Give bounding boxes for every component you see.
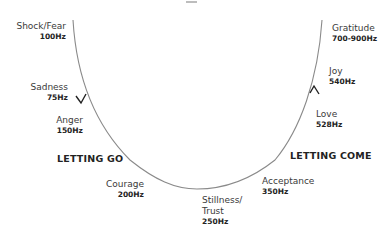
node-love: Love 528Hz: [316, 109, 342, 130]
node-frequency: 250Hz: [202, 217, 242, 227]
node-name-line2: Trust: [202, 206, 242, 217]
section-letting-go: LETTING GO: [57, 153, 123, 164]
node-shock-fear: Shock/Fear 100Hz: [4, 21, 66, 42]
node-name: Joy: [329, 66, 355, 77]
node-name: Love: [316, 109, 342, 120]
node-name: Anger: [30, 115, 83, 126]
node-frequency: 100Hz: [4, 32, 66, 42]
node-anger: Anger 150Hz: [30, 115, 83, 136]
node-frequency: 350Hz: [262, 187, 314, 197]
node-frequency: 75Hz: [10, 93, 68, 103]
arrow-down-icon: [76, 94, 86, 103]
node-frequency: 150Hz: [30, 126, 83, 136]
node-frequency: 700-900Hz: [332, 34, 377, 44]
node-joy: Joy 540Hz: [329, 66, 355, 87]
node-frequency: 528Hz: [316, 120, 342, 130]
node-name-line1: Stillness/: [202, 195, 242, 206]
node-stillness-trust: Stillness/ Trust 250Hz: [202, 195, 242, 227]
node-name: Gratitude: [332, 23, 377, 34]
arrow-up-icon: [310, 86, 319, 94]
node-name: Sadness: [10, 82, 68, 93]
node-frequency: 200Hz: [80, 190, 144, 200]
section-letting-come: LETTING COME: [290, 150, 372, 161]
node-name: Acceptance: [262, 176, 314, 187]
node-courage: Courage 200Hz: [80, 179, 144, 200]
node-acceptance: Acceptance 350Hz: [262, 176, 314, 197]
node-name: Shock/Fear: [4, 21, 66, 32]
node-name: Courage: [80, 179, 144, 190]
node-frequency: 540Hz: [329, 77, 355, 87]
node-sadness: Sadness 75Hz: [10, 82, 68, 103]
node-gratitude: Gratitude 700-900Hz: [332, 23, 377, 44]
